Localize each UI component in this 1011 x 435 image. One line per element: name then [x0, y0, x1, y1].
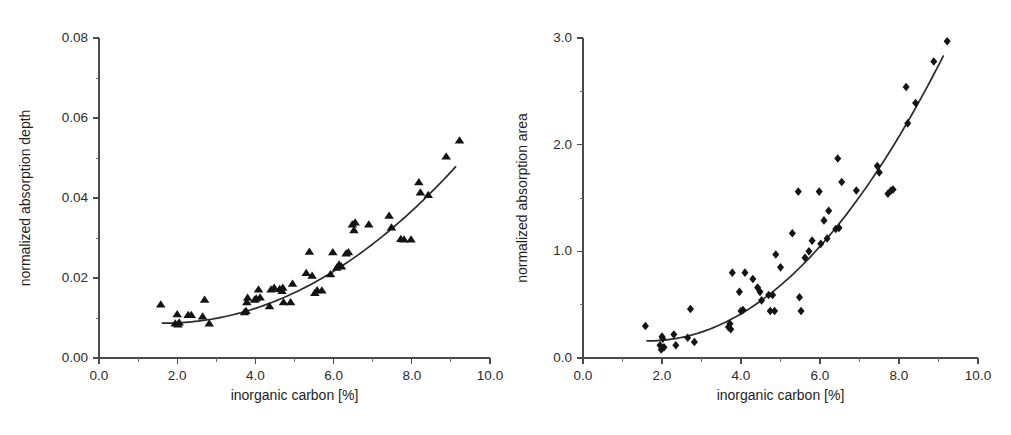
x-tick-label: 4.0: [246, 368, 265, 383]
data-point: [853, 186, 860, 195]
chart-panel-right: 0.01.02.03.00.02.04.06.08.010.0inorganic…: [505, 0, 1011, 435]
x-tick-label: 10.0: [965, 368, 991, 383]
fit-curve: [647, 56, 943, 341]
y-tick-label: 0.00: [62, 350, 88, 365]
data-point: [198, 312, 208, 319]
data-point-group: [642, 37, 951, 354]
data-point: [930, 57, 937, 66]
data-point: [305, 248, 315, 255]
data-point: [172, 310, 182, 317]
x-tick-label: 8.0: [890, 368, 909, 383]
data-point: [384, 212, 394, 219]
data-point: [771, 307, 778, 316]
data-point: [798, 307, 805, 316]
data-point: [441, 152, 451, 159]
data-point: [838, 178, 845, 187]
data-point: [772, 250, 779, 259]
data-point: [834, 154, 841, 163]
data-point: [670, 330, 677, 339]
data-point: [769, 291, 776, 300]
data-point: [758, 296, 765, 305]
x-axis-title: inorganic carbon [%]: [231, 387, 359, 403]
figure-root: 0.000.020.040.060.080.02.04.06.08.010.0i…: [0, 0, 1011, 435]
data-point: [328, 248, 338, 255]
data-point: [254, 285, 264, 292]
data-point: [687, 305, 694, 314]
scatter-plot-absorption-depth: 0.000.020.040.060.080.02.04.06.08.010.0i…: [0, 0, 505, 435]
x-tick-label: 10.0: [477, 368, 503, 383]
chart-panel-left: 0.000.020.040.060.080.02.04.06.08.010.0i…: [0, 0, 505, 435]
data-point: [796, 293, 803, 302]
y-axis-title: normalized absorption area: [514, 113, 530, 283]
y-tick-label: 0.08: [62, 30, 88, 45]
data-point: [672, 341, 679, 350]
data-point: [691, 338, 698, 347]
y-tick-label: 0.04: [62, 190, 89, 205]
x-axis-title: inorganic carbon [%]: [717, 387, 845, 403]
data-point: [243, 294, 253, 301]
scatter-plot-absorption-area: 0.01.02.03.00.02.04.06.08.010.0inorganic…: [505, 0, 1011, 435]
data-point: [455, 136, 465, 143]
axis-spine: [583, 38, 978, 358]
data-point: [777, 263, 784, 272]
data-point: [795, 187, 802, 196]
data-point: [301, 269, 311, 276]
y-tick-label: 0.02: [62, 270, 88, 285]
data-point: [156, 300, 166, 307]
x-tick-label: 4.0: [732, 368, 751, 383]
data-point: [288, 280, 298, 287]
data-point: [944, 37, 951, 46]
data-point: [817, 240, 824, 249]
y-tick-label: 0.0: [553, 350, 572, 365]
y-tick-label: 3.0: [553, 30, 572, 45]
data-point: [416, 188, 426, 195]
data-point: [820, 216, 827, 225]
x-tick-label: 8.0: [402, 368, 421, 383]
data-point: [265, 302, 275, 309]
y-tick-label: 1.0: [553, 243, 572, 258]
y-tick-label: 0.06: [62, 110, 88, 125]
data-point: [805, 247, 812, 256]
data-point: [816, 187, 823, 196]
x-tick-label: 0.0: [574, 368, 593, 383]
x-tick-label: 0.0: [90, 368, 109, 383]
x-tick-label: 2.0: [168, 368, 187, 383]
data-point: [729, 268, 736, 277]
data-point: [789, 229, 796, 238]
data-point: [741, 268, 748, 277]
data-point: [286, 298, 296, 305]
data-point: [749, 275, 756, 284]
x-tick-label: 6.0: [811, 368, 830, 383]
data-point: [200, 296, 210, 303]
data-point: [414, 178, 424, 185]
y-tick-label: 2.0: [553, 137, 572, 152]
x-tick-label: 6.0: [324, 368, 343, 383]
data-point: [912, 99, 919, 108]
data-point-group: [156, 136, 464, 327]
y-axis-title: normalized absorption depth: [17, 110, 33, 287]
data-point: [825, 207, 832, 216]
x-tick-label: 2.0: [653, 368, 672, 383]
data-point: [364, 220, 374, 227]
data-point: [809, 236, 816, 245]
data-point: [406, 235, 416, 242]
data-point: [903, 83, 910, 92]
data-point: [736, 288, 743, 297]
data-point: [642, 322, 649, 331]
